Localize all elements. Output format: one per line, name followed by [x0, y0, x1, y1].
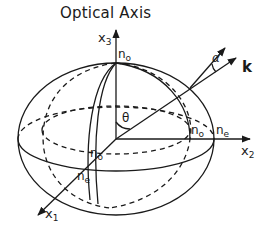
ne-front-label: ne — [77, 170, 90, 182]
index-ellipsoid-diagram — [0, 0, 269, 234]
theta-label: θ — [122, 112, 129, 124]
optical-axis-title: Optical Axis — [60, 6, 151, 21]
no-front-sub: o — [98, 152, 104, 162]
x3-label: x3 — [98, 31, 111, 44]
no-top-label: no — [118, 48, 131, 60]
no-front-label: no — [90, 147, 103, 159]
k-label: k — [242, 60, 252, 75]
ne-right-sub: e — [224, 129, 230, 139]
meridian-front-2 — [96, 63, 116, 204]
alpha-arc — [212, 64, 216, 72]
x3-base: x — [98, 30, 106, 45]
x2-label: x2 — [241, 144, 254, 157]
no-front-base: n — [90, 146, 98, 160]
ne-front-sub: e — [85, 175, 91, 185]
equator-front — [18, 139, 214, 171]
x3-sub: 3 — [106, 37, 112, 47]
meridian-front-1 — [88, 63, 116, 200]
no-top-sub: o — [126, 53, 132, 63]
no-right-label: no — [191, 124, 204, 136]
ne-right-label: ne — [216, 124, 229, 136]
ne-right-base: n — [216, 123, 224, 137]
ne-front-base: n — [77, 169, 85, 183]
no-right-base: n — [191, 123, 199, 137]
alpha-label: α — [212, 52, 220, 64]
no-top-base: n — [118, 47, 126, 61]
x2-sub: 2 — [249, 150, 255, 160]
x1-sub: 1 — [53, 213, 59, 223]
x2-base: x — [241, 143, 249, 158]
x1-base: x — [45, 206, 53, 221]
x1-label: x1 — [45, 207, 58, 220]
no-right-sub: o — [199, 129, 205, 139]
